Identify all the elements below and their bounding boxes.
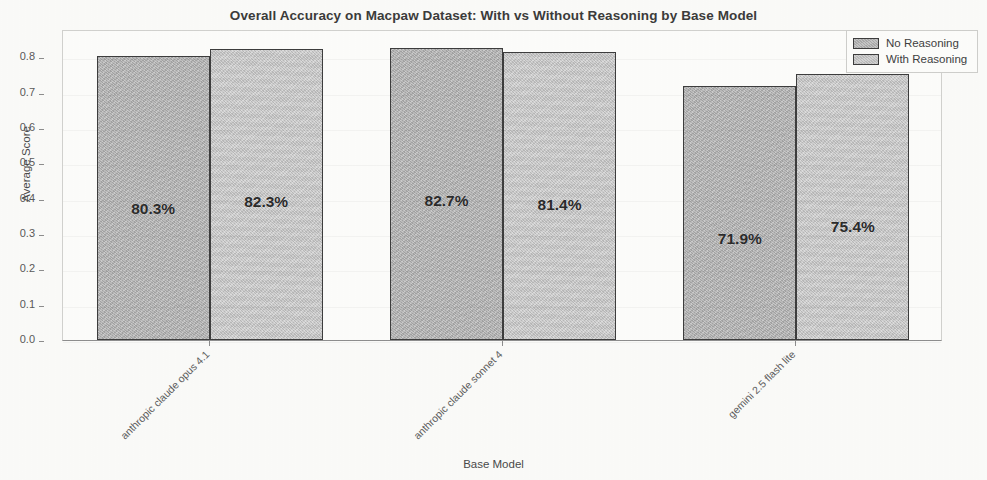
y-tick-label: 0.8 (20, 50, 35, 62)
y-tick-mark (39, 200, 44, 201)
y-tick-label: 0.2 (20, 262, 35, 274)
y-tick-label: 0.4 (20, 192, 35, 204)
y-tick-mark (39, 94, 44, 95)
x-axis-label: Base Model (0, 458, 987, 470)
y-tick-label: 0.6 (20, 121, 35, 133)
gridline (63, 201, 941, 202)
y-tick-mark (39, 129, 44, 130)
legend-item-with-reasoning: With Reasoning (853, 51, 971, 67)
x-tick-label: anthropic claude sonnet 4 (411, 348, 505, 442)
gridline (63, 342, 941, 343)
gridline (63, 236, 941, 237)
bar-no-reasoning: 82.7% (390, 48, 503, 340)
chart-title: Overall Accuracy on Macpaw Dataset: With… (0, 8, 987, 23)
y-tick-mark (39, 58, 44, 59)
legend-swatch-icon (853, 38, 879, 49)
y-tick-mark (39, 306, 44, 307)
y-tick-mark (39, 164, 44, 165)
bar-no-reasoning: 80.3% (97, 56, 210, 340)
gridline (63, 165, 941, 166)
bar-value-label: 75.4% (797, 218, 908, 236)
legend-swatch-icon (853, 54, 879, 65)
legend-item-no-reasoning: No Reasoning (853, 35, 971, 51)
gridline (63, 95, 941, 96)
y-tick-mark (39, 235, 44, 236)
gridline (63, 307, 941, 308)
gridline (63, 271, 941, 272)
bar-value-label: 81.4% (504, 196, 615, 214)
bar-no-reasoning: 71.9% (683, 86, 796, 340)
bar-value-label: 82.3% (211, 193, 322, 211)
bar-value-label: 71.9% (684, 230, 795, 248)
y-tick-mark (39, 341, 44, 342)
y-tick-label: 0.5 (20, 156, 35, 168)
plot-area: 80.3%82.3%82.7%81.4%71.9%75.4% (62, 30, 942, 341)
y-tick-label: 0.7 (20, 86, 35, 98)
gridline (63, 130, 941, 131)
chart-legend: No Reasoning With Reasoning (846, 30, 978, 73)
gridline (63, 59, 941, 60)
bar-value-label: 80.3% (98, 200, 209, 218)
x-tick-label: gemini 2.5 flash lite (726, 348, 798, 420)
bar-chart: Overall Accuracy on Macpaw Dataset: With… (0, 0, 987, 480)
y-tick-label: 0.0 (20, 333, 35, 345)
y-tick-mark (39, 270, 44, 271)
bar-with-reasoning: 75.4% (796, 74, 909, 340)
legend-label: With Reasoning (886, 53, 967, 65)
y-tick-label: 0.3 (20, 227, 35, 239)
legend-label: No Reasoning (886, 37, 959, 49)
y-tick-label: 0.1 (20, 298, 35, 310)
x-tick-label: anthropic claude opus 4.1 (118, 348, 212, 442)
bar-with-reasoning: 82.3% (210, 49, 323, 340)
